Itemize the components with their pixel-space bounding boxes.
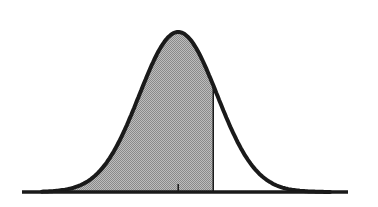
shaded-area [42,32,213,192]
normal-distribution-chart [0,0,378,207]
